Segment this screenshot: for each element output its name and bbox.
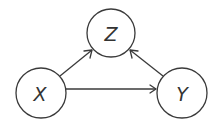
causal-diagram: Z X Y xyxy=(0,0,221,121)
node-z: Z xyxy=(87,9,135,57)
node-y-label: Y xyxy=(176,83,189,105)
node-y: Y xyxy=(157,68,207,118)
edge-x-to-y xyxy=(66,85,156,93)
edge-y-to-z xyxy=(130,50,163,76)
edge-x-to-z xyxy=(60,50,92,76)
node-x-label: X xyxy=(32,83,47,105)
node-x: X xyxy=(16,68,66,118)
node-z-label: Z xyxy=(103,23,118,45)
